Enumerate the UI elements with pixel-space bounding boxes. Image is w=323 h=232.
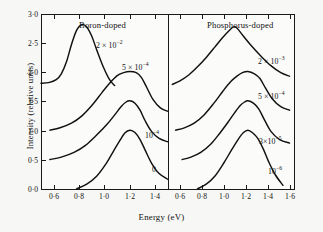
spectrum-curve-phosphorus-0 [172, 27, 289, 85]
spectrum-curve-boron-2 [50, 101, 168, 160]
spectrum-curve-phosphorus-1 [176, 71, 290, 130]
spectrum-curve-boron-0 [41, 24, 115, 85]
curve-layer [0, 0, 323, 232]
spectrum-curve-phosphorus-3 [197, 130, 282, 189]
figure-container: 3·0 2·5 2·0 1·5 1·0 0·5 0·0 0·6 0·8 1·0 … [0, 0, 323, 232]
spectrum-curve-boron-3 [77, 130, 168, 189]
spectrum-curve-phosphorus-2 [182, 101, 289, 160]
